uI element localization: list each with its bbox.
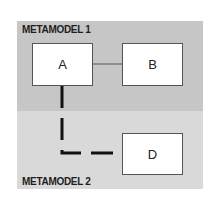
node-b: B (122, 43, 183, 86)
node-d-label: D (148, 147, 157, 162)
edge-a-d (62, 86, 122, 153)
node-a-label: A (58, 57, 67, 72)
node-b-label: B (148, 57, 157, 72)
connectors (0, 0, 210, 206)
node-a: A (32, 43, 93, 86)
node-d: D (122, 133, 183, 175)
